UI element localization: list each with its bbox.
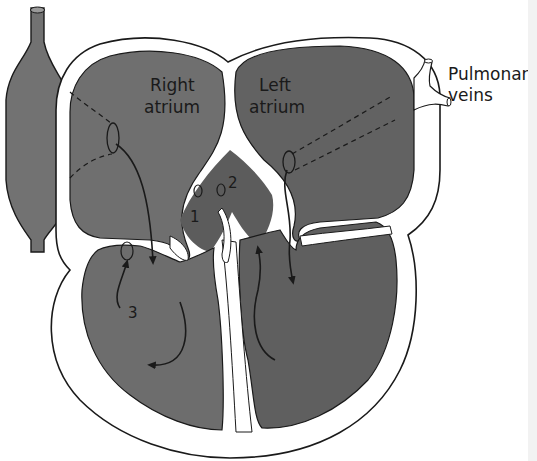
pulmonary-veins-label-2: veins xyxy=(448,85,493,105)
marker-1-label: 1 xyxy=(190,208,200,226)
right-atrium-label-2: atrium xyxy=(144,97,200,117)
left-atrium-label-1: Left xyxy=(259,75,291,95)
marker-2-label: 2 xyxy=(228,174,238,192)
heart-diagram: Right atrium Left atrium Pulmonar veins … xyxy=(0,0,537,461)
left-atrium-label-2: atrium xyxy=(249,97,305,117)
right-atrium-label-1: Right xyxy=(150,75,195,95)
page-edge-shadow xyxy=(528,0,537,461)
marker-3-label: 3 xyxy=(128,304,138,322)
pulmonary-veins-label-1: Pulmonar xyxy=(448,64,529,84)
